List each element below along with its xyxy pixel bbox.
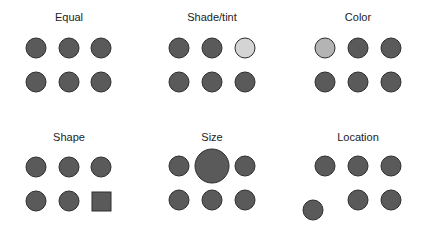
circle: [91, 38, 111, 58]
circle: [235, 190, 255, 210]
circle: [202, 38, 222, 58]
circle-displaced: [303, 200, 323, 220]
circle: [315, 72, 335, 92]
panel-color: Color: [315, 11, 401, 92]
circle: [235, 156, 255, 176]
panel-title-shade-tint: Shade/tint: [187, 11, 237, 23]
circle: [91, 157, 111, 177]
circle-large: [195, 149, 229, 183]
panel-title-equal: Equal: [55, 11, 83, 23]
circle: [381, 156, 401, 176]
panel-shade-tint: Shade/tint: [169, 11, 255, 92]
circle: [169, 38, 189, 58]
circle: [169, 72, 189, 92]
circle: [26, 191, 46, 211]
circle: [202, 72, 222, 92]
panel-title-size: Size: [201, 131, 222, 143]
circle: [348, 190, 368, 210]
circle: [381, 72, 401, 92]
circle: [381, 190, 401, 210]
circle: [26, 72, 46, 92]
circle: [26, 38, 46, 58]
circle: [91, 72, 111, 92]
circle: [26, 157, 46, 177]
circle-tint: [235, 38, 255, 58]
circle: [169, 190, 189, 210]
circle: [348, 156, 368, 176]
circle: [381, 38, 401, 58]
circle: [59, 72, 79, 92]
panel-equal: Equal: [26, 11, 111, 92]
circle: [169, 156, 189, 176]
circle: [348, 72, 368, 92]
preattentive-attributes-diagram: Equal Shade/tint Color Shape: [0, 0, 423, 228]
panel-shape: Shape: [26, 131, 111, 211]
panel-title-shape: Shape: [53, 131, 85, 143]
circle: [235, 72, 255, 92]
circle: [59, 191, 79, 211]
panel-location: Location: [303, 131, 401, 220]
panel-title-location: Location: [337, 131, 379, 143]
circle: [315, 156, 335, 176]
square: [92, 192, 111, 211]
circle-color-variant: [315, 38, 335, 58]
circle: [202, 190, 222, 210]
circle: [348, 38, 368, 58]
panel-size: Size: [169, 131, 255, 210]
circle: [59, 38, 79, 58]
panel-title-color: Color: [345, 11, 372, 23]
circle: [59, 157, 79, 177]
